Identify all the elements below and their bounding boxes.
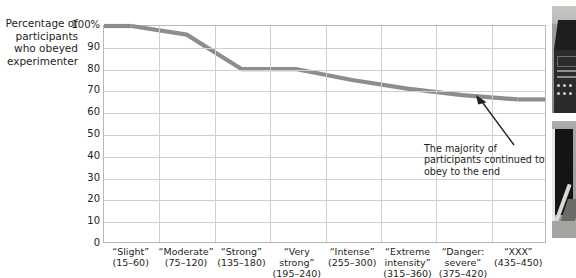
y-tick-label: 30 <box>56 173 100 183</box>
x-tick-label: “XXX”(435–450) <box>476 246 560 268</box>
horizontal-gridline <box>104 91 545 92</box>
y-tick-label: 40 <box>56 151 100 161</box>
y-tick-label: 20 <box>56 194 100 204</box>
horizontal-gridline <box>104 200 545 201</box>
x-axis-tick-labels: “Slight”(15–60)“Moderate”(75–120)“Strong… <box>103 246 546 278</box>
y-tick-label: 100% <box>56 20 100 30</box>
y-tick-label: 90 <box>56 42 100 52</box>
vertical-gridline <box>159 26 160 242</box>
y-tick-label: 80 <box>56 64 100 74</box>
y-tick-label: 50 <box>56 129 100 139</box>
vertical-gridline <box>436 26 437 242</box>
annotation-label: The majority of participants continued t… <box>424 143 556 177</box>
horizontal-gridline <box>104 179 545 180</box>
x-tick-label-line: (435–450) <box>476 257 560 268</box>
vertical-gridline <box>381 26 382 242</box>
horizontal-gridline <box>104 48 545 49</box>
data-line <box>132 26 518 99</box>
x-tick-label-line: (195–240) <box>255 268 339 278</box>
x-tick-label-line: “XXX” <box>476 246 560 257</box>
vertical-gridline <box>326 26 327 242</box>
shock-generator-photo <box>552 6 576 113</box>
x-tick-label-line: (375–420) <box>421 268 505 278</box>
experiment-room-photo <box>552 121 576 238</box>
horizontal-gridline <box>104 70 545 71</box>
annotation-arrow-icon <box>470 95 520 147</box>
vertical-gridline <box>270 26 271 242</box>
milgram-obedience-line-chart: Percentage of participants who obeyed ex… <box>0 0 576 278</box>
y-axis-tick-labels: 100%9080706050403020100 <box>56 0 100 278</box>
y-tick-label: 60 <box>56 107 100 117</box>
vertical-gridline <box>215 26 216 242</box>
y-tick-label: 10 <box>56 216 100 226</box>
horizontal-gridline <box>104 222 545 223</box>
y-tick-label: 70 <box>56 85 100 95</box>
